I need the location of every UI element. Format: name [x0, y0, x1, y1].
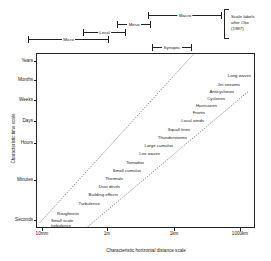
phenomenon-label: Large cumulus	[145, 144, 174, 149]
x-tick-label: 1km	[170, 232, 179, 237]
phenomenon-label: Tornados	[126, 161, 144, 166]
y-axis-title: Characteristic time scale	[11, 109, 16, 169]
phenomenon-label: Fronts	[193, 111, 205, 116]
x-axis-title: Characteristic horizontal distance scale	[106, 248, 186, 253]
bracket-cap-right	[108, 36, 109, 43]
phenomenon-label: Local winds	[181, 119, 204, 124]
y-tick-label: Months	[18, 78, 33, 83]
bracket-cap-left	[152, 44, 153, 51]
phenomenon-label: Squall lines	[168, 128, 190, 133]
bracket-cap-left	[148, 12, 149, 19]
y-tick-label: Minutes	[17, 178, 33, 183]
bracket-cap-left	[83, 29, 84, 36]
plot-area: Seconds Minutes Hours Days Weeks Months …	[36, 53, 255, 228]
phenomenon-label: Small scale turbulence	[51, 218, 73, 227]
scale-bracket-macro: Macro	[148, 12, 222, 19]
annotation-bracket	[224, 9, 229, 39]
bracket-cap-right	[221, 12, 222, 19]
bracket-cap-right	[125, 29, 126, 36]
y-tick-label: Weeks	[19, 98, 33, 103]
phenomenon-label: Hurricanes	[196, 104, 217, 109]
phenomenon-label: Small cumulus	[113, 169, 141, 174]
phenomenon-label: Jet streams	[218, 83, 240, 88]
bracket-cap-left	[117, 21, 118, 28]
bracket-cap-right	[191, 44, 192, 51]
y-tick-label: Seconds	[15, 218, 33, 223]
scale-bracket-label: Macro	[177, 12, 192, 20]
annotation-text: Scale labels after Oke (1987)	[231, 14, 255, 33]
scale-bracket-meso: Meso	[117, 21, 151, 28]
phenomena-band	[37, 54, 254, 227]
phenomenon-label: Dust devils	[99, 185, 120, 190]
x-tick	[174, 227, 175, 231]
phenomenon-label: Long waves	[228, 74, 251, 79]
phenomenon-label: Roughness	[57, 212, 79, 217]
scale-bracket-synoptic: Synoptic	[152, 44, 192, 51]
scale-bracket-label: Synoptic	[162, 44, 182, 52]
y-tick-label: Years	[21, 59, 33, 64]
phenomenon-label: Building effects	[89, 193, 118, 198]
plot-inner: Long waves Jet streams Anticyclones Cycl…	[37, 54, 254, 227]
phenomenon-label: Turbulence	[78, 202, 100, 207]
y-tick-label: Hours	[21, 141, 33, 146]
scale-bracket-label: Meso	[127, 21, 141, 29]
phenomenon-label: Thermals	[105, 177, 123, 182]
y-tick-label: Days	[23, 119, 33, 124]
band-lower-line	[84, 92, 248, 227]
scale-bracket-label: Micro	[62, 36, 76, 44]
bracket-cap-left	[28, 36, 29, 43]
bracket-cap-right	[150, 21, 151, 28]
atmospheric-scales-chart: Macro Meso Local Micro Synoptic	[0, 0, 271, 261]
x-tick-label: 1000km	[232, 232, 248, 237]
phenomenon-label: Cyclones	[207, 97, 225, 102]
scale-bracket-micro: Micro	[28, 36, 109, 43]
phenomenon-label: Thunderstorms	[158, 136, 187, 141]
x-tick	[42, 227, 43, 231]
phenomenon-label: Anticyclones	[210, 90, 234, 95]
x-tick	[240, 227, 241, 231]
scale-bracket-local: Local	[83, 29, 126, 36]
phenomenon-label: Lee waves	[139, 152, 160, 157]
x-tick-label: 10mm	[36, 232, 49, 237]
x-tick-label: 1m	[104, 232, 110, 237]
x-tick	[107, 227, 108, 231]
